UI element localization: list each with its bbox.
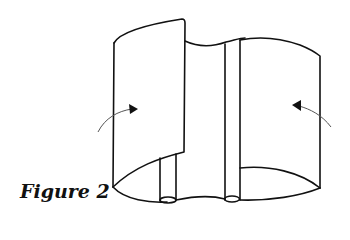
bottom-curve: [176, 196, 225, 200]
left-shaft: [160, 154, 176, 203]
right-shaft: [225, 40, 241, 202]
right-arrow-icon: [292, 100, 331, 127]
figure-caption: Figure 2: [20, 180, 110, 202]
top-curve: [185, 38, 245, 46]
right-blade: [240, 38, 320, 200]
left-arrow-icon: [98, 104, 138, 132]
